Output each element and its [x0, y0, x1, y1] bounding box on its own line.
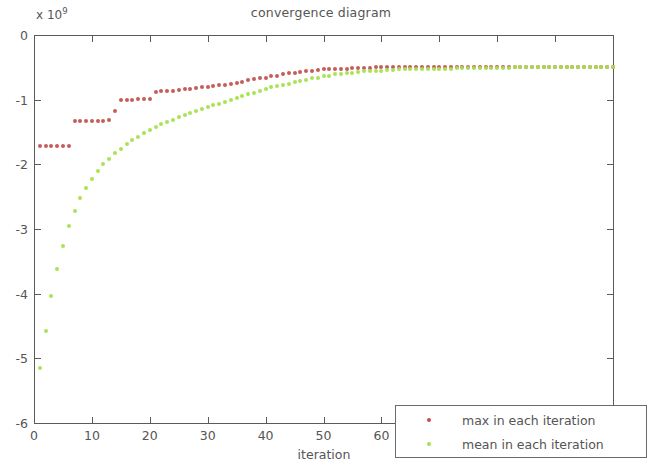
data-point: [223, 100, 227, 104]
data-point: [542, 65, 546, 69]
data-point: [322, 74, 326, 78]
data-point: [252, 91, 256, 95]
data-point: [588, 65, 592, 69]
data-point: [101, 162, 105, 166]
data-point: [420, 67, 424, 71]
plot-area: 0-1-2-3-4-5-6 0102030405060708090100 max…: [34, 35, 614, 424]
data-point: [489, 66, 493, 70]
data-point: [229, 98, 233, 102]
data-point: [432, 67, 436, 71]
data-point: [455, 66, 459, 70]
data-point: [565, 65, 569, 69]
data-point: [466, 66, 470, 70]
y-tick-label: -2: [0, 157, 28, 172]
data-point: [200, 107, 204, 111]
data-point: [605, 65, 609, 69]
legend-item-max: max in each iteration: [396, 408, 648, 432]
data-point: [385, 68, 389, 72]
data-point: [49, 294, 53, 298]
data-point: [240, 94, 244, 98]
data-point: [287, 82, 291, 86]
data-point: [113, 151, 117, 155]
data-point: [513, 65, 517, 69]
data-point: [310, 76, 314, 80]
data-point: [84, 186, 88, 190]
x-tick-label: 0: [30, 428, 38, 443]
x-tick-label: 50: [316, 428, 332, 443]
data-point: [269, 85, 273, 89]
data-point: [582, 65, 586, 69]
x-axis-title: iteration: [34, 447, 614, 462]
data-point: [437, 67, 441, 71]
data-point: [264, 87, 268, 91]
data-point: [576, 65, 580, 69]
data-point: [183, 113, 187, 117]
data-point: [547, 65, 551, 69]
data-point: [518, 65, 522, 69]
data-point: [235, 96, 239, 100]
data-point: [530, 65, 534, 69]
data-point: [333, 72, 337, 76]
y-tick-label: -5: [0, 351, 28, 366]
legend-dot-max-icon: [427, 418, 431, 422]
data-point: [136, 135, 140, 139]
data-point: [154, 125, 158, 129]
data-point: [119, 147, 123, 151]
data-point: [501, 66, 505, 70]
data-point: [130, 138, 134, 142]
legend-dot-mean-icon: [427, 442, 431, 446]
data-point: [397, 67, 401, 71]
data-point: [44, 329, 48, 333]
data-point: [206, 105, 210, 109]
y-axis-exponent-mantissa: x 10: [36, 8, 62, 22]
data-point: [165, 120, 169, 124]
y-tick-label: 0: [0, 28, 28, 43]
y-tick-label: -3: [0, 222, 28, 237]
data-point: [298, 79, 302, 83]
data-point: [61, 244, 65, 248]
data-point: [125, 142, 129, 146]
legend-label-max: max in each iteration: [462, 413, 596, 428]
y-tick-label: -1: [0, 92, 28, 107]
data-point: [559, 65, 563, 69]
series-mean: [34, 35, 614, 424]
data-point: [570, 65, 574, 69]
x-tick-label: 60: [373, 428, 389, 443]
data-point: [472, 66, 476, 70]
x-tick-label: 40: [258, 428, 274, 443]
data-point: [374, 69, 378, 73]
data-point: [171, 118, 175, 122]
data-point: [460, 66, 464, 70]
y-axis-exponent-label: x 109: [36, 8, 68, 22]
data-point: [246, 92, 250, 96]
data-point: [316, 76, 320, 80]
data-point: [553, 65, 557, 69]
data-point: [107, 157, 111, 161]
data-point: [90, 177, 94, 181]
data-point: [275, 84, 279, 88]
data-point: [258, 89, 262, 93]
legend-marker-max-cell: [396, 418, 462, 422]
data-point: [391, 68, 395, 72]
x-tick-label: 20: [142, 428, 158, 443]
data-point: [78, 196, 82, 200]
data-point: [403, 67, 407, 71]
chart-title: convergence diagram: [0, 5, 632, 20]
y-tick-label: -6: [0, 416, 28, 431]
data-point: [148, 128, 152, 132]
data-point: [159, 122, 163, 126]
data-point: [67, 224, 71, 228]
x-tick-label: 10: [84, 428, 100, 443]
data-point: [38, 366, 42, 370]
data-point: [379, 69, 383, 73]
data-point: [443, 67, 447, 71]
data-point: [408, 67, 412, 71]
x-tick-label: 30: [200, 428, 216, 443]
data-point: [339, 72, 343, 76]
y-axis-exponent-power: 9: [62, 6, 67, 16]
data-point: [414, 67, 418, 71]
data-point: [96, 169, 100, 173]
data-point: [73, 209, 77, 213]
data-point: [304, 78, 308, 82]
